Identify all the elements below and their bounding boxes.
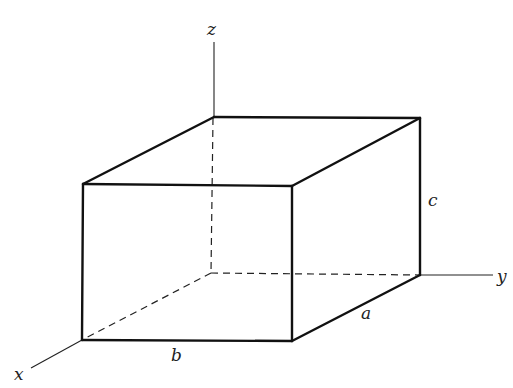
edge-front-left: [82, 184, 83, 340]
hidden-edge-x: [82, 273, 211, 340]
edge-top-front: [83, 184, 292, 186]
x-axis: [31, 340, 82, 368]
edge-top-left: [83, 117, 214, 184]
edge-bottom-right: [292, 275, 420, 341]
box-diagram: z y x c a b: [0, 0, 513, 388]
edge-front-bottom: [82, 340, 292, 341]
z-axis-label: z: [206, 19, 217, 39]
edge-top-right: [292, 118, 420, 186]
edge-top-back: [214, 117, 420, 118]
dimension-c-label: c: [428, 190, 438, 210]
x-axis-label: x: [14, 364, 24, 384]
hidden-edge-y: [211, 273, 420, 275]
hidden-edge-z: [211, 118, 213, 273]
y-axis-label: y: [496, 266, 507, 286]
dimension-b-label: b: [171, 345, 182, 365]
dimension-a-label: a: [361, 303, 371, 323]
